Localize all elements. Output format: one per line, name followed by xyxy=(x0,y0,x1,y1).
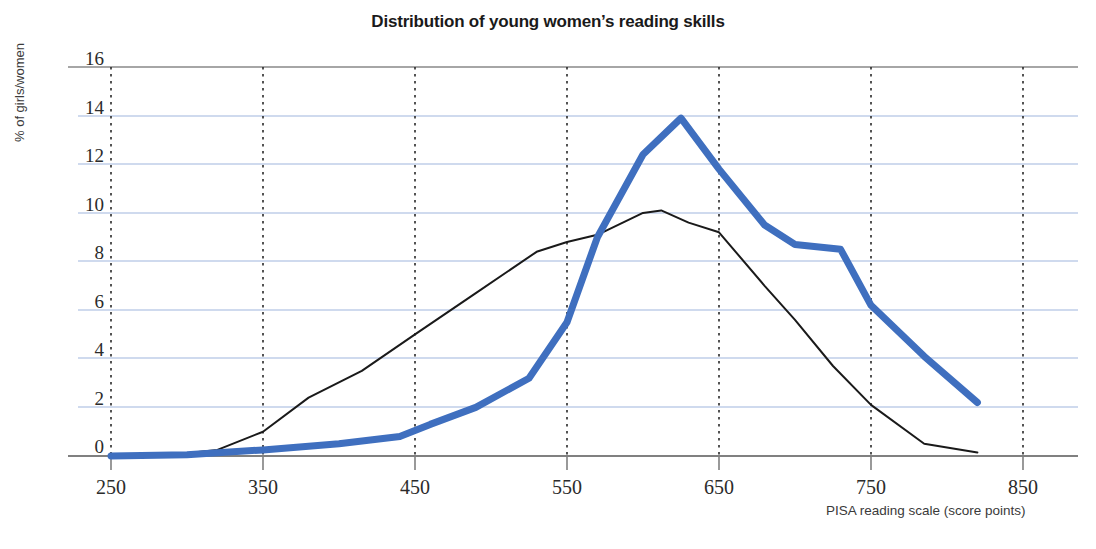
chart-figure: Distribution of young women’s reading sk… xyxy=(0,0,1096,549)
series-line-blue xyxy=(111,118,977,456)
x-tick-marks xyxy=(111,456,1023,470)
series-line-black xyxy=(111,210,977,456)
plot-area xyxy=(0,0,1096,549)
